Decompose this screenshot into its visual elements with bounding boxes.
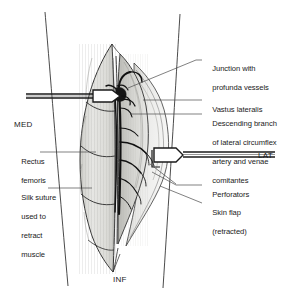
vastus-lateralis-muscle — [117, 54, 149, 246]
label-silk-line3: retract — [21, 231, 42, 240]
anatomical-figure: MED LAT INF Junction with profunda vesse… — [0, 0, 290, 294]
label-skin-flap-line1: Skin flap — [212, 208, 241, 217]
label-descending-line1: Descending branch — [212, 119, 277, 128]
label-rectus-line1: Rectus — [21, 157, 44, 166]
label-skin-flap: Skin flap (retracted) — [204, 198, 247, 246]
label-junction-line2: profunda vessels — [212, 83, 269, 92]
label-junction-line1: Junction with — [212, 64, 255, 73]
label-skin-flap-line2: (retracted) — [212, 227, 246, 236]
retractor-superior — [26, 90, 120, 102]
label-silk-line1: Silk suture — [21, 193, 56, 202]
label-silk-line4: muscle — [21, 250, 45, 259]
label-silk-line2: used to — [21, 212, 46, 221]
orientation-medial: MED — [14, 120, 33, 129]
label-descending-line3: artery and venae — [212, 157, 268, 166]
label-descending-line2: of lateral circumflex — [212, 138, 276, 147]
orientation-inferior: INF — [113, 275, 127, 284]
label-silk-suture: Silk suture used to retract muscle — [13, 183, 56, 269]
